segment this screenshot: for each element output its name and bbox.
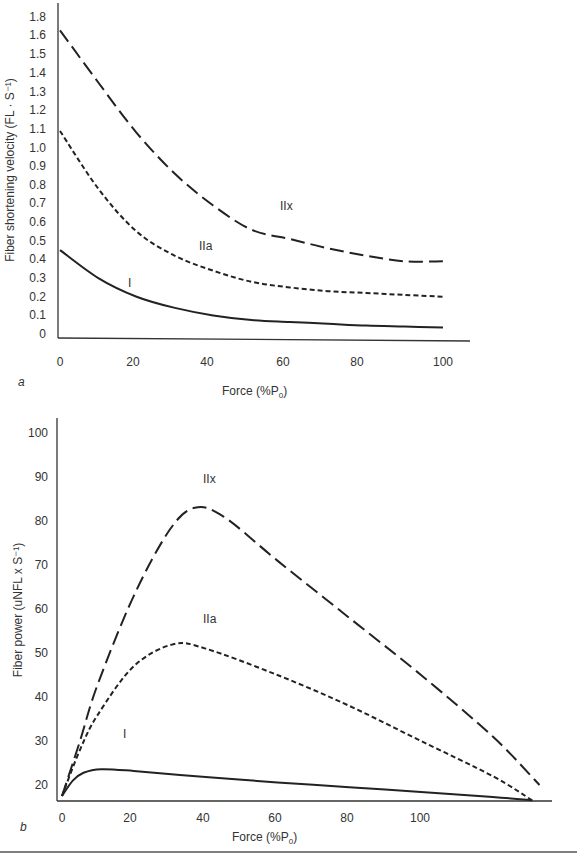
- y-tick-label: 1.5: [29, 47, 46, 61]
- x-tick-label: 0: [57, 355, 64, 369]
- series-IIa: [62, 643, 532, 800]
- chart-a-velocity: 00.10.20.30.40.50.60.70.80.91.01.11.21.3…: [3, 3, 470, 400]
- series-I: [60, 250, 443, 327]
- x-tick-label: 20: [123, 811, 137, 825]
- y-tick-label: 90: [35, 470, 49, 484]
- y-tick-label: 1.0: [29, 141, 46, 155]
- y-tick-label: 0.2: [29, 290, 46, 304]
- chart-b-label-IIa: IIa: [203, 612, 217, 626]
- y-tick-label: 30: [35, 734, 49, 748]
- x-tick-label: 100: [433, 355, 453, 369]
- chart-b-label-I: I: [123, 727, 126, 741]
- x-tick-label: 60: [276, 355, 290, 369]
- y-tick-label: 50: [35, 646, 49, 660]
- chart-a-panel-letter: a: [18, 375, 25, 389]
- chart-a-x-tick-labels: 020406080100: [57, 355, 454, 369]
- y-tick-label: 1.3: [29, 85, 46, 99]
- x-tick-label: 60: [268, 811, 282, 825]
- chart-b-power: 2030405060708090100 020406080100 IIx IIa…: [11, 418, 552, 846]
- y-tick-label: 0.6: [29, 215, 46, 229]
- y-tick-label: 0.3: [29, 271, 46, 285]
- chart-a-label-I: I: [128, 276, 131, 290]
- y-tick-label: 1.1: [29, 122, 46, 136]
- series-IIx: [62, 507, 540, 796]
- series-IIx: [60, 30, 443, 261]
- chart-a-label-IIa: IIa: [199, 239, 213, 253]
- chart-b-y-tick-labels: 2030405060708090100: [28, 426, 48, 792]
- y-tick-label: 1.8: [29, 10, 46, 24]
- chart-b-y-axis-title: Fiber power (uNFL x S⁻¹): [11, 543, 25, 677]
- chart-b-panel-letter: b: [20, 820, 27, 834]
- series-I: [62, 769, 532, 800]
- y-tick-label: 0.8: [29, 178, 46, 192]
- y-tick-label: 80: [35, 514, 49, 528]
- chart-b-x-tick-labels: 020406080100: [59, 811, 431, 825]
- x-tick-label: 40: [196, 811, 210, 825]
- y-tick-label: 20: [35, 778, 49, 792]
- chart-b-x-axis-title: Force (%P0): [232, 830, 297, 846]
- chart-a-x-axis-title: Force (%P0): [222, 384, 287, 400]
- x-tick-label: 0: [59, 811, 66, 825]
- x-tick-label: 20: [126, 355, 140, 369]
- y-tick-label: 40: [35, 690, 49, 704]
- y-tick-label: 60: [35, 602, 49, 616]
- figure-canvas: 00.10.20.30.40.50.60.70.80.91.01.11.21.3…: [0, 0, 577, 857]
- y-tick-label: 0.4: [29, 252, 46, 266]
- chart-a-y-axis-title: Fiber shortening velocity (FL · S⁻¹): [3, 78, 17, 262]
- x-tick-label: 80: [350, 355, 364, 369]
- y-tick-label: 70: [35, 558, 49, 572]
- chart-a-x-axis: [58, 338, 470, 341]
- y-tick-label: 1.4: [29, 66, 46, 80]
- y-tick-label: 0.5: [29, 234, 46, 248]
- chart-b-label-IIx: IIx: [203, 472, 216, 486]
- y-tick-label: 0: [39, 327, 46, 341]
- series-IIa: [60, 131, 443, 297]
- chart-b-series: [62, 507, 540, 800]
- chart-a-y-tick-labels: 00.10.20.30.40.50.60.70.80.91.01.11.21.3…: [29, 10, 46, 341]
- chart-a-label-IIx: IIx: [280, 199, 293, 213]
- x-tick-label: 100: [410, 811, 430, 825]
- x-tick-label: 40: [200, 355, 214, 369]
- y-tick-label: 0.7: [29, 196, 46, 210]
- y-tick-label: 1.6: [29, 28, 46, 42]
- chart-a-series: [60, 30, 443, 327]
- y-tick-label: 0.1: [29, 308, 46, 322]
- x-tick-label: 80: [340, 811, 354, 825]
- y-tick-label: 1.2: [29, 103, 46, 117]
- y-tick-label: 0.9: [29, 159, 46, 173]
- y-tick-label: 100: [28, 426, 48, 440]
